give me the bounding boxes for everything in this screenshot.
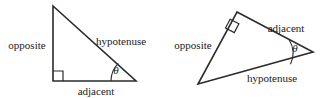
right-opposite-label: opposite [174, 40, 211, 51]
trigonometry-figure: opposite hypotenuse adjacent θ opposite … [0, 0, 326, 98]
right-theta-label: θ [292, 43, 297, 54]
left-hypotenuse-label: hypotenuse [96, 36, 146, 47]
right-adjacent-label: adjacent [268, 23, 305, 34]
right-hypotenuse-label: hypotenuse [247, 73, 297, 84]
left-right-angle-marker [53, 71, 63, 81]
left-opposite-label: opposite [8, 40, 45, 51]
left-adjacent-label: adjacent [78, 86, 115, 97]
left-theta-label: θ [113, 65, 118, 76]
